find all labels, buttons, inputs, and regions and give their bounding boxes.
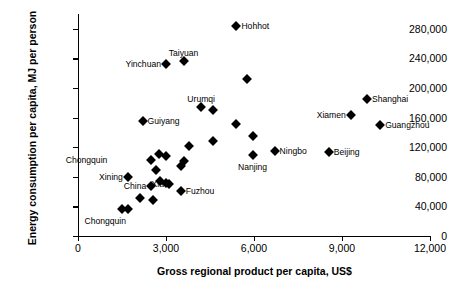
data-point [231,21,241,31]
data-point [151,165,161,175]
data-point [161,59,171,69]
data-point [146,155,156,165]
x-tick [342,236,343,241]
data-point-label: Yinchuan [125,60,161,69]
data-point-label: Taiyuan [169,49,199,58]
data-point-label: Guangzhou [385,121,429,130]
data-point-label: Hohhot [241,22,269,31]
data-point [375,120,385,130]
x-tick-label: 12,000 [395,243,452,254]
data-point [135,193,145,203]
x-tick-label: 6,000 [219,243,289,254]
plot-area: HohhotTaiyuanYinchuanShanghaiUrumqiXiame… [78,14,430,236]
data-point [161,151,171,161]
data-point-label: Shanghai [372,95,408,104]
x-axis-title: Gross regional product per capita, US$ [78,265,431,277]
data-point [346,110,356,120]
data-point-label: Xiamen [317,111,346,120]
data-point-label: Chongquin [66,156,108,165]
data-point [242,74,252,84]
data-point [123,204,133,214]
data-point [231,119,241,129]
x-tick [254,236,255,241]
data-point [248,150,258,160]
y-axis-title: Energy consumption per capita, MJ per pe… [26,3,38,253]
x-tick [166,236,167,241]
x-tick [430,236,431,241]
data-point-label: Guiyang [148,117,180,126]
data-point [148,195,158,205]
data-point-label: Chongquin [84,217,126,226]
x-tick-label: 3,000 [131,243,201,254]
data-point [324,147,334,157]
data-point-label: Fuzhou [186,187,215,196]
data-point-label: China [124,182,146,191]
data-point [362,94,372,104]
x-tick [78,236,79,241]
data-point [123,172,133,182]
data-point-label: Nanjing [238,163,267,172]
data-point [248,131,258,141]
data-point-label: Beijing [334,148,360,157]
x-tick-label: 9,000 [307,243,377,254]
data-point [208,136,218,146]
data-point-label: Xining [99,173,123,182]
x-tick-label: 0 [43,243,113,254]
data-point [208,105,218,115]
data-point [138,116,148,126]
data-point-label: Ningbo [280,147,307,156]
data-point [176,186,186,196]
data-point [270,146,280,156]
data-point-label: Urumqi [187,95,215,104]
data-point [185,142,195,152]
